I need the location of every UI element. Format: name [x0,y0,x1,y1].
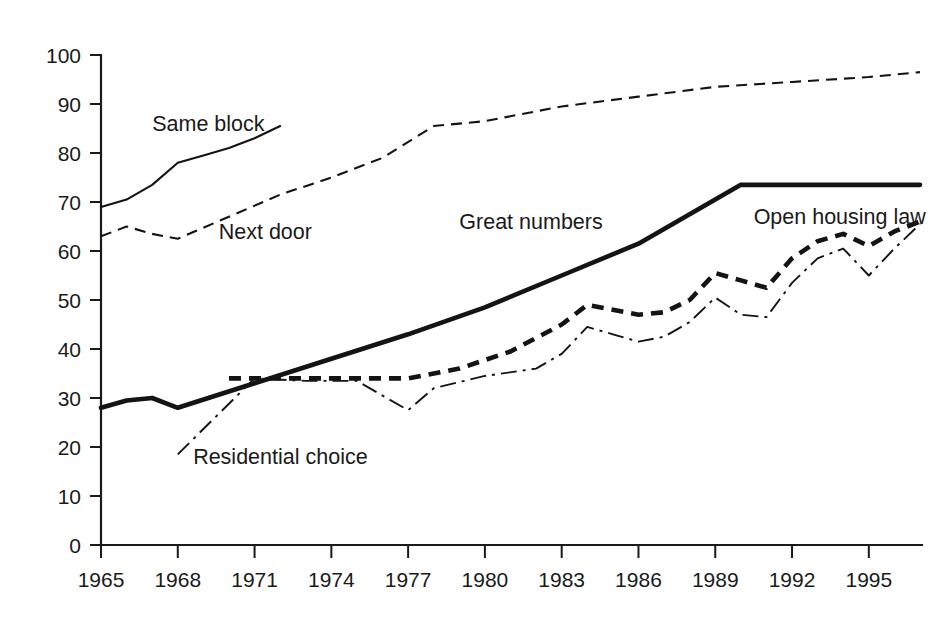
y-tick-label: 0 [69,534,81,557]
x-tick-label: 1983 [538,568,585,591]
series-label-great-numbers: Great numbers [459,210,602,234]
series-label-same-block: Same block [152,112,265,136]
series-line-open-housing-law [229,222,920,379]
y-tick-label: 40 [58,338,81,361]
x-tick-label: 1971 [231,568,278,591]
y-tick-label: 10 [58,485,81,508]
x-tick-label: 1977 [385,568,432,591]
y-tick-label: 20 [58,436,81,459]
series-line-residential-choice [178,224,920,454]
x-tick-label: 1980 [462,568,509,591]
series-line-same-block [101,126,280,207]
x-tick-label: 1986 [615,568,662,591]
y-tick-label: 30 [58,387,81,410]
x-tick-label: 1989 [692,568,739,591]
x-tick-label: 1965 [78,568,125,591]
x-tick-label: 1974 [308,568,355,591]
series-label-next-door: Next door [219,220,312,244]
y-axis-ticks: 0102030405060708090100 [46,44,101,557]
x-tick-label: 1968 [154,568,201,591]
series-annotation-labels: Same blockNext doorGreat numbersOpen hou… [152,112,926,469]
x-axis-ticks: 1965196819711974197719801983198619891992… [78,545,893,591]
chart-container: 0102030405060708090100 19651968197119741… [0,0,949,632]
y-tick-label: 90 [58,93,81,116]
y-tick-label: 100 [46,44,81,67]
y-tick-label: 60 [58,240,81,263]
series-label-residential-choice: Residential choice [193,445,368,469]
y-tick-label: 70 [58,191,81,214]
x-tick-label: 1995 [845,568,892,591]
series-label-open-housing-law: Open housing law [754,205,927,229]
x-tick-label: 1992 [769,568,816,591]
y-tick-label: 50 [58,289,81,312]
y-tick-label: 80 [58,142,81,165]
line-chart: 0102030405060708090100 19651968197119741… [0,0,949,632]
